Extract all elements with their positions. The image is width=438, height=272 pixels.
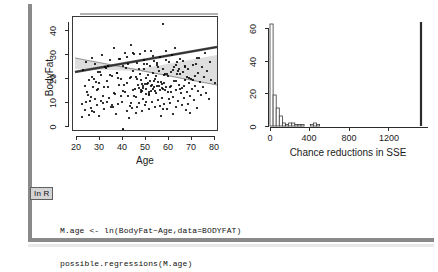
scatter-x-tick-50 (145, 136, 146, 140)
hist-x-tick-label-1200: 1200 (377, 133, 401, 143)
hist-y-tick-label-60: 60 (248, 21, 258, 37)
hist-x-tick-400 (309, 127, 310, 131)
histogram-plot-area (269, 22, 429, 127)
scatter-x-axis-title: Age (100, 155, 190, 166)
scatter-x-tick-label-60: 60 (159, 142, 177, 152)
hist-x-tick-800 (349, 127, 350, 131)
hist-y-tick-label-40: 40 (248, 54, 258, 70)
scatter-x-tick-label-50: 50 (136, 142, 154, 152)
scatter-y-axis-line (68, 22, 69, 127)
histogram-svg (269, 22, 429, 127)
scatter-x-tick-70 (191, 136, 192, 140)
r-code-line-1: M.age <- ln(BodyFat~Age,data=BODYFAT) (60, 225, 241, 236)
scatter-y-tick-label-10: 10 (48, 95, 58, 111)
hist-x-tick-0 (270, 127, 271, 131)
hist-x-axis-title: Chance reductions in SSE (263, 147, 433, 158)
scatter-x-tick-label-80: 80 (205, 142, 223, 152)
scatter-x-tick-40 (122, 136, 123, 140)
hist-x-tick-1200 (388, 127, 389, 131)
scatter-x-tick-label-20: 20 (67, 142, 85, 152)
scatter-y-tick-label-0: 0 (48, 119, 58, 135)
hist-x-tick-label-800: 800 (339, 133, 359, 143)
page-frame-left (28, 4, 32, 242)
scatter-y-tick-0 (65, 126, 69, 127)
scatter-points (81, 23, 216, 130)
histogram-panel: 60 40 20 0 (238, 14, 434, 169)
scatter-x-tick-20 (76, 136, 77, 140)
scatter-y-tick-label-40: 40 (48, 23, 58, 39)
in-r-badge: In R (30, 187, 53, 200)
hist-x-tick-label-0: 0 (261, 133, 279, 143)
scatter-svg (73, 17, 218, 131)
scatter-plot-panel: BodyFat 40 30 20 10 0 (40, 14, 225, 169)
scatter-y-tick-10 (65, 102, 69, 103)
hist-x-tick-label-400: 400 (299, 133, 319, 143)
scatter-x-tick-label-40: 40 (113, 142, 131, 152)
scatter-y-tick-40 (65, 30, 69, 31)
r-code-line-2: possible.regressions(M.age) (60, 258, 241, 269)
scatter-x-tick-30 (99, 136, 100, 140)
r-code-block: M.age <- ln(BodyFat~Age,data=BODYFAT) po… (60, 203, 241, 272)
hist-y-tick-label-0: 0 (248, 119, 258, 135)
scatter-x-tick-80 (214, 136, 215, 140)
scatter-y-tick-30 (65, 54, 69, 55)
scatter-y-tick-label-30: 30 (48, 47, 58, 63)
hist-y-tick-label-20: 20 (248, 86, 258, 102)
histogram-bars (270, 24, 320, 126)
scatter-y-tick-label-20: 20 (48, 71, 58, 87)
scatter-y-tick-20 (65, 78, 69, 79)
scatter-plot-area (72, 16, 218, 131)
scatter-x-tick-label-70: 70 (182, 142, 200, 152)
scatter-x-tick-60 (168, 136, 169, 140)
scatter-x-tick-label-30: 30 (90, 142, 108, 152)
